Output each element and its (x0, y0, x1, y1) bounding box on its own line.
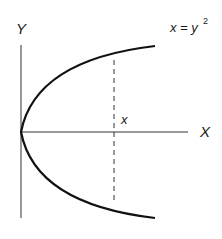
x-axis-label: X (199, 123, 211, 140)
equation-label: x = y (169, 20, 199, 35)
parabola-diagram: Y X x x = y 2 (0, 0, 222, 239)
y-axis-label: Y (16, 20, 27, 37)
equation-exponent: 2 (203, 16, 208, 26)
marker-x-label: x (120, 112, 128, 127)
